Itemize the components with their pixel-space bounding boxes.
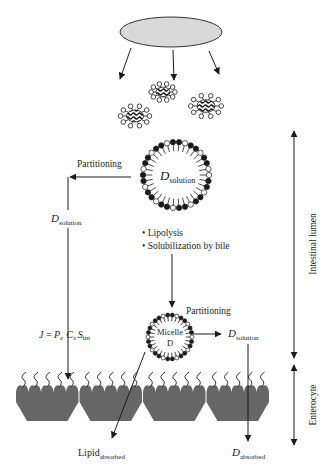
enterocyte-label: Enterocyte [308,384,318,425]
bullet-lipolysis: • Lipolysis [142,228,183,238]
vesicle-d-solution-label: Dsolution [159,168,195,185]
intestinal-lumen-label: Intestinal lumen [308,213,318,275]
flux-equation: J = PeCsSint [39,329,90,342]
mixed-micelle [146,313,194,361]
diagram-canvas: Dsolution Partitioning Dsolution • Lipol… [0,0,330,472]
enterocyte-cells [16,372,269,421]
small-micelles [118,82,223,128]
micelle-d-label: D [167,338,173,348]
right-d-solution-label: Dsolution [227,327,259,342]
vesicle [140,139,211,210]
dispersion-arrows [120,48,219,80]
lipid-droplet [120,17,222,47]
partitioning-micelle-label: Partitioning [186,306,231,316]
lipid-absorbed-label: Lipidabsorbed [78,447,125,461]
micelle-label: Micelle [157,327,183,337]
partitioning-left-label: Partitioning [77,159,122,169]
bullet-solubilization: • Solubilization by bile [142,241,230,251]
d-absorbed-label: Dabsorbed [231,446,266,461]
